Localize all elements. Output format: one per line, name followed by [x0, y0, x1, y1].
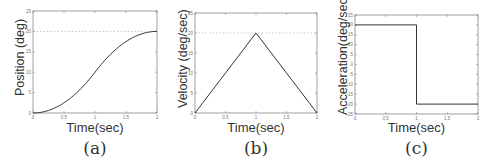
acceleration-line	[355, 25, 478, 104]
panel-acceleration: 00.511.52-25-20-15-10-50510152025 Accele…	[0, 0, 492, 163]
y-axis-label-text: Acceleration(deg/sec	[336, 0, 350, 115]
y-tick-label: 5	[350, 52, 353, 57]
y-axis-label: Acceleration(deg/sec2)	[335, 0, 350, 115]
x-axis-label: Time(sec)	[355, 120, 478, 135]
panel-caption: (c)	[355, 138, 478, 158]
y-tick-label: 0	[350, 62, 353, 67]
